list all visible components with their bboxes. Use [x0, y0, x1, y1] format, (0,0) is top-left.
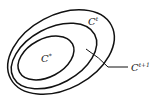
label-c-star: C* — [41, 52, 52, 64]
label-c-t: Ct — [88, 15, 99, 27]
nested-contour-diagram: C* Ct Ct+1 — [0, 0, 162, 103]
outer-contour — [0, 0, 129, 103]
label-c-t-plus-1: Ct+1 — [131, 61, 150, 73]
